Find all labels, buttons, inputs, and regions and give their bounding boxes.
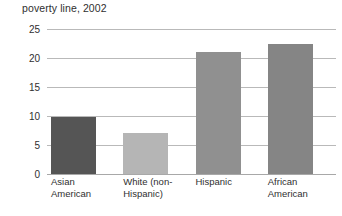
y-axis-tick-label: 5 bbox=[34, 140, 40, 151]
y-axis-tick-label: 20 bbox=[29, 53, 40, 64]
bar bbox=[123, 133, 168, 174]
bar-chart: poverty line, 2002 0510152025 Asian Amer… bbox=[0, 0, 342, 216]
x-axis-labels: Asian AmericanWhite (non- Hispanic)Hispa… bbox=[47, 176, 336, 216]
bar bbox=[268, 44, 313, 175]
bar bbox=[196, 52, 241, 174]
x-axis-category-label: White (non- Hispanic) bbox=[123, 176, 201, 199]
y-axis-tick-label: 0 bbox=[34, 169, 40, 180]
y-axis-tick-label: 15 bbox=[29, 82, 40, 93]
y-axis-tick-label: 25 bbox=[29, 24, 40, 35]
x-axis-category-label: African American bbox=[268, 176, 342, 199]
bar bbox=[51, 117, 96, 174]
x-axis-category-label: Asian American bbox=[51, 176, 129, 199]
gridline-0: 0 bbox=[47, 174, 336, 175]
x-axis-category-label: Hispanic bbox=[196, 176, 274, 188]
plot-area: 0510152025 bbox=[47, 29, 336, 174]
y-axis-tick-label: 10 bbox=[29, 111, 40, 122]
chart-title: poverty line, 2002 bbox=[22, 2, 107, 14]
bars-group bbox=[47, 29, 336, 174]
